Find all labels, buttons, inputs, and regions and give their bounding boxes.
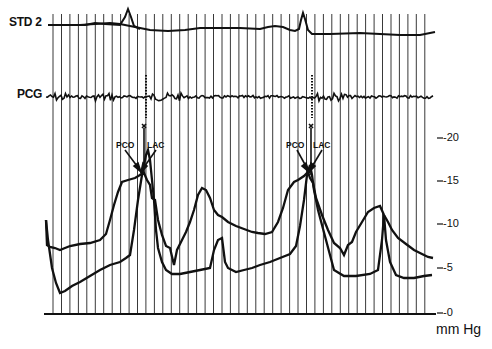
y-tick-20: -20 [443, 131, 459, 143]
y-axis-unit: mm Hg [436, 321, 481, 337]
lac-label-beat1: LAC [147, 140, 164, 150]
y-tick-5: -5 [443, 261, 453, 273]
pcg-label: PCG [17, 87, 42, 101]
chart-canvas [0, 0, 492, 349]
y-tick-10: -10 [443, 217, 459, 229]
time-marker-grid [53, 14, 425, 314]
std2-label: STD 2 [9, 15, 42, 29]
y-tick-15: -15 [443, 174, 459, 186]
lac-label-beat2: LAC [313, 140, 330, 150]
y-tick-0: -0 [443, 306, 453, 318]
chart-figure: STD 2 PCG PCO LAC PCO LAC -20 -15 -10 -5… [0, 0, 492, 349]
pco-label-beat1: PCO [116, 140, 134, 150]
pco-label-beat2: PCO [286, 140, 304, 150]
